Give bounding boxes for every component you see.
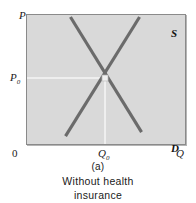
figure-panel-a: S D P P0 0 Q0 Q (a) Without health insur…	[0, 0, 196, 203]
origin-label: 0	[12, 148, 18, 159]
equilibrium-point-marker	[102, 75, 108, 81]
equilibrium-price-tick-label: P0	[10, 72, 20, 86]
caption-line-1: Without health	[0, 174, 196, 188]
quantity-tick-letter: Q	[98, 147, 106, 159]
figure-caption: (a) Without health insurance	[0, 160, 196, 202]
price-tick-letter: P	[10, 71, 17, 83]
x-axis-title: Q	[176, 148, 184, 159]
price-tick-subscript: 0	[17, 78, 21, 86]
supply-demand-chart-svg	[27, 15, 185, 144]
supply-demand-plot-area: S D	[26, 14, 186, 145]
y-axis-title: P	[19, 10, 26, 21]
demand-curve	[70, 17, 141, 132]
figure-panel-id: (a)	[0, 160, 196, 174]
caption-line-2: insurance	[0, 188, 196, 202]
supply-curve-label: S	[171, 28, 177, 39]
